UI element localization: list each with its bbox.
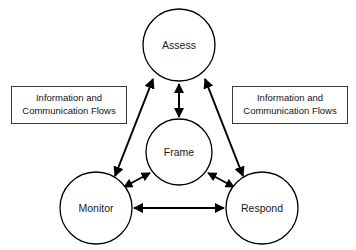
assess-label: Assess	[162, 39, 196, 51]
note-right-line1: Information and	[257, 92, 323, 105]
diagram-canvas: Assess Frame Monitor Respond	[0, 0, 356, 250]
node-assess[interactable]: Assess	[143, 9, 215, 81]
note-left-line2: Communication Flows	[22, 105, 115, 118]
frame-label: Frame	[164, 146, 194, 158]
risk-management-diagram: Assess Frame Monitor Respond Information…	[0, 0, 356, 250]
node-monitor[interactable]: Monitor	[60, 172, 132, 244]
connector-frame-respond	[208, 173, 234, 187]
monitor-label: Monitor	[78, 202, 114, 214]
respond-label: Respond	[241, 202, 283, 214]
note-right-line2: Communication Flows	[243, 105, 336, 118]
note-left-line1: Information and	[36, 92, 102, 105]
note-box-right: Information and Communication Flows	[232, 86, 348, 124]
connector-monitor-frame	[124, 173, 150, 187]
note-box-left: Information and Communication Flows	[11, 86, 127, 124]
node-respond[interactable]: Respond	[226, 172, 298, 244]
node-frame[interactable]: Frame	[146, 119, 212, 185]
